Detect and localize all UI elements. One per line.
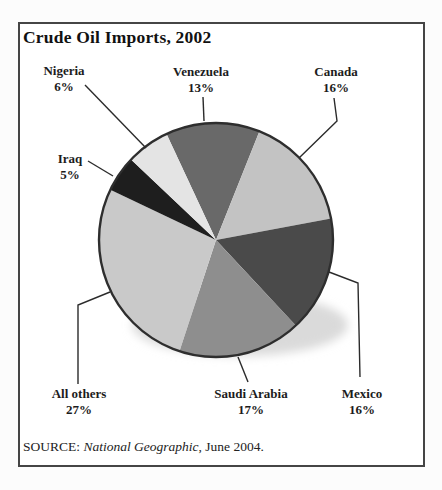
- slice-label-name: Iraq: [30, 151, 110, 167]
- slice-label-pct: 17%: [191, 402, 311, 418]
- slice-label-pct: 5%: [30, 167, 110, 183]
- slice-label-name: All others: [39, 386, 119, 402]
- slice-label-pct: 6%: [24, 79, 104, 95]
- figure-crude-oil-imports: Crude Oil Imports, 2002 Venezuela 13% Ca…: [0, 0, 442, 490]
- slice-label-pct: 16%: [296, 80, 376, 96]
- slice-label-mexico: Mexico 16%: [322, 386, 402, 417]
- source-publication: National Geographic: [83, 439, 198, 454]
- slice-label-pct: 13%: [161, 80, 241, 96]
- slice-label-name: Venezuela: [161, 64, 241, 80]
- slice-label-all-others: All others 27%: [39, 386, 119, 417]
- slice-label-iraq: Iraq 5%: [30, 151, 110, 182]
- slice-label-saudi-arabia: Saudi Arabia 17%: [191, 386, 311, 417]
- leader-line-canada: [299, 98, 337, 158]
- leader-line-nigeria: [85, 85, 146, 148]
- slice-label-name: Nigeria: [24, 63, 104, 79]
- source-suffix: , June 2004.: [199, 439, 264, 454]
- slice-label-pct: 16%: [322, 402, 402, 418]
- leader-line-venezuela: [203, 97, 204, 121]
- slice-label-name: Canada: [296, 64, 376, 80]
- slice-label-pct: 27%: [39, 402, 119, 418]
- slice-label-venezuela: Venezuela 13%: [161, 64, 241, 95]
- leader-line-all-others: [78, 292, 110, 384]
- leader-line-saudi-arabia: [238, 357, 248, 382]
- slice-label-canada: Canada 16%: [296, 64, 376, 95]
- slice-label-name: Saudi Arabia: [191, 386, 311, 402]
- slice-label-nigeria: Nigeria 6%: [24, 63, 104, 94]
- source-prefix: SOURCE:: [23, 439, 83, 454]
- source-citation: SOURCE: National Geographic, June 2004.: [23, 439, 264, 455]
- slice-label-name: Mexico: [322, 386, 402, 402]
